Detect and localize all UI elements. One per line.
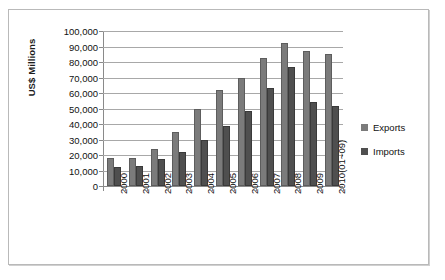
- y-axis-tick-label: 70,000: [69, 72, 98, 83]
- x-axis-tick-mark: [125, 187, 126, 191]
- y-axis-tick-label: 50,000: [69, 103, 98, 114]
- bar-group: [234, 31, 256, 186]
- bar-exports: [194, 109, 201, 186]
- bar-exports: [325, 54, 332, 186]
- legend-swatch-icon: [361, 148, 368, 155]
- bar-exports: [281, 43, 288, 186]
- bar-exports: [216, 90, 223, 186]
- x-axis-tick-label: 2009: [314, 173, 325, 194]
- bar-group: [125, 31, 147, 186]
- y-axis-tick-label: 100,000: [64, 26, 98, 37]
- bar-imports: [267, 88, 274, 186]
- bar-exports: [129, 158, 136, 186]
- y-axis-tick-label: 40,000: [69, 119, 98, 130]
- bar-group: [278, 31, 300, 186]
- bar-exports: [172, 132, 179, 186]
- y-axis-tick-label: 60,000: [69, 88, 98, 99]
- bar-group: [212, 31, 234, 186]
- x-axis-tick-label: 2006: [249, 173, 260, 194]
- legend-label: Exports: [373, 122, 405, 133]
- x-axis-tick-label: 2005: [227, 173, 238, 194]
- x-axis-tick-label: 2007: [271, 173, 282, 194]
- y-axis-tick-label: 90,000: [69, 41, 98, 52]
- y-axis-tick-label: 0: [93, 181, 98, 192]
- x-axis-tick-label: 2002: [162, 173, 173, 194]
- bar-exports: [238, 78, 245, 186]
- x-axis-tick-label: 2004: [205, 173, 216, 194]
- x-axis-tick-mark: [256, 187, 257, 191]
- y-axis-tick-label: 30,000: [69, 134, 98, 145]
- x-axis-tick-mark: [147, 187, 148, 191]
- x-axis-tick-mark: [299, 187, 300, 191]
- x-axis-tick-mark: [212, 187, 213, 191]
- bar-group: [190, 31, 212, 186]
- bar-group: [147, 31, 169, 186]
- bar-group: [168, 31, 190, 186]
- bar-exports: [303, 51, 310, 186]
- bar-group: [256, 31, 278, 186]
- x-axis-tick-label: 2008: [292, 173, 303, 194]
- x-axis-tick-mark: [321, 187, 322, 191]
- x-axis-tick-mark: [103, 187, 104, 191]
- plot-area: 010,00020,00030,00040,00050,00060,00070,…: [103, 31, 343, 186]
- legend-swatch-icon: [361, 124, 368, 131]
- x-axis-tick-mark: [278, 187, 279, 191]
- x-axis-tick-mark: [190, 187, 191, 191]
- x-axis-tick-label: 2010(01~09): [336, 140, 347, 194]
- chart-frame: US$ Millions 010,00020,00030,00040,00050…: [8, 9, 429, 265]
- x-axis-tick-mark: [343, 187, 344, 191]
- legend-item-imports[interactable]: Imports: [361, 146, 427, 157]
- bar-group: [299, 31, 321, 186]
- x-axis-tick-label: 2003: [183, 173, 194, 194]
- bar-exports: [107, 158, 114, 186]
- legend-label: Imports: [373, 146, 405, 157]
- y-axis-tick-label: 80,000: [69, 57, 98, 68]
- chart-legend: ExportsImports: [361, 122, 427, 170]
- y-axis-tick-label: 20,000: [69, 150, 98, 161]
- x-axis-tick-label: 2001: [140, 173, 151, 194]
- x-axis-tick-mark: [234, 187, 235, 191]
- bar-imports: [288, 67, 295, 186]
- legend-item-exports[interactable]: Exports: [361, 122, 427, 133]
- bar-exports: [260, 58, 267, 186]
- x-axis-tick-label: 2000: [118, 173, 129, 194]
- gridline: [103, 186, 343, 187]
- bar-exports: [151, 149, 158, 186]
- bar-group: [103, 31, 125, 186]
- y-axis-title: US$ Millions: [26, 13, 37, 123]
- y-axis-tick-label: 10,000: [69, 165, 98, 176]
- x-axis-tick-mark: [168, 187, 169, 191]
